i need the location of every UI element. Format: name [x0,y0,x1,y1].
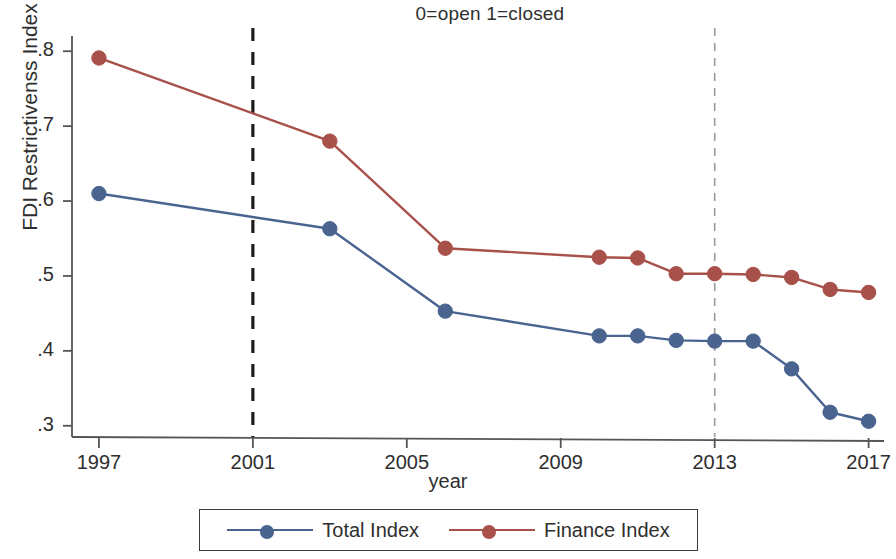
marker-total-index [438,304,452,318]
marker-finance-index [631,251,645,265]
marker-total-index [323,222,337,236]
marker-total-index [631,329,645,343]
marker-total-index [92,186,106,200]
marker-finance-index [707,267,721,281]
marker-finance-index [861,285,875,299]
x-tick-label: 2013 [675,451,755,474]
x-tick-label: 2001 [213,451,293,474]
marker-total-index [823,405,837,419]
marker-finance-index [669,267,683,281]
marker-finance-index [92,51,106,65]
y-tick-label: .6 [10,188,54,211]
x-axis [72,437,884,441]
x-tick-label: 2017 [829,451,896,474]
legend-entry-total-index[interactable]: Total Index [227,519,419,542]
y-tick-label: .5 [10,263,54,286]
legend-key-total-index [227,523,313,537]
y-tick-label: .7 [10,113,54,136]
marker-finance-index [746,267,760,281]
legend-entry-finance-index[interactable]: Finance Index [449,519,670,542]
legend-label-total-index: Total Index [322,519,419,542]
marker-total-index [707,334,721,348]
axes [63,36,884,448]
reference-lines [253,28,715,437]
marker-total-index [746,334,760,348]
data-series [92,51,876,429]
legend-key-finance-index [449,523,535,537]
x-tick-label: 2005 [367,451,447,474]
line-total-index [99,194,869,422]
marker-total-index [592,329,606,343]
marker-total-index [669,333,683,347]
chart-legend: Total Index Finance Index [199,509,698,551]
marker-total-index [784,362,798,376]
marker-finance-index [823,282,837,296]
y-tick-label: .4 [10,338,54,361]
marker-finance-index [784,270,798,284]
marker-finance-index [323,134,337,148]
marker-finance-index [438,241,452,255]
y-tick-label: .8 [10,38,54,61]
fdi-restrictiveness-chart: 0=open 1=closed FDI Restrictivenss Index… [0,0,896,559]
x-tick-label: 2009 [521,451,601,474]
line-finance-index [99,58,869,292]
y-tick-label: .3 [10,413,54,436]
x-tick-label: 1997 [59,451,139,474]
marker-total-index [861,414,875,428]
plot-area [0,0,896,559]
legend-label-finance-index: Finance Index [544,519,670,542]
marker-finance-index [592,250,606,264]
